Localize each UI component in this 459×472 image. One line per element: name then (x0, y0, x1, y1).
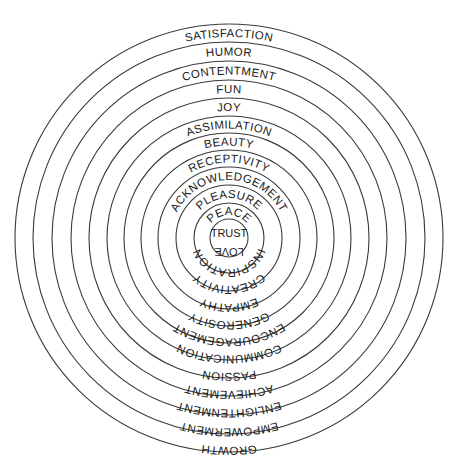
center-label-bottom: LOVE (214, 246, 243, 258)
center-label-top: TRUST (211, 227, 248, 239)
band-label-bottom: ACHIEVEMENT (183, 383, 275, 401)
band-label-top: HUMOR (205, 45, 252, 58)
band-label-top: ASSIMILATION (184, 118, 273, 138)
band-label-bottom: EMPATHY (198, 296, 260, 314)
band-label-bottom: EMPOWERMENT (178, 420, 279, 438)
labels-group: SATISFACTIONGROWTHHUMOREMPOWERMENTCONTEN… (168, 27, 290, 457)
band-label-bottom: GROWTH (201, 443, 258, 457)
band-label-top: JOY (217, 101, 242, 114)
band-label-top: BEAUTY (203, 135, 255, 150)
band-label-bottom: ENLIGHTENMENT (175, 400, 283, 420)
band-label-top: SATISFACTION (184, 27, 274, 44)
concentric-values-diagram: SATISFACTIONGROWTHHUMOREMPOWERMENTCONTEN… (0, 0, 459, 472)
band-label-bottom: PASSION (201, 368, 257, 383)
band-label-top: FUN (216, 83, 242, 95)
